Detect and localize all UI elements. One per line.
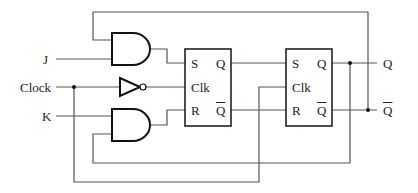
lower-and-gate — [112, 109, 150, 141]
k-label: K — [42, 110, 51, 123]
ff1-q-label: Q — [216, 57, 225, 70]
q-junction-dot — [348, 61, 352, 65]
q-output-label: Q — [383, 57, 392, 70]
clock-junction-dot — [72, 85, 76, 89]
ff1-qbar-label: Q — [216, 104, 225, 117]
ff2-q-label: Q — [317, 57, 326, 70]
ff1-r-label: R — [191, 104, 200, 117]
jk-flipflop-diagram: J Clock K S Clk R Q Q S Clk R Q Q Q Q — [0, 0, 418, 193]
ff2-r-label: R — [292, 104, 301, 117]
qbar-junction-dot — [366, 108, 370, 112]
ff1-clk-label: Clk — [191, 81, 210, 94]
ff1-s-label: S — [191, 57, 198, 70]
qbar-output-label: Q — [383, 104, 392, 117]
upper-and-gate — [112, 33, 150, 65]
and1-to-s-wire — [150, 49, 185, 63]
circuit-wires — [0, 0, 418, 193]
ff2-clk-label: Clk — [292, 81, 311, 94]
ff2-qbar-label: Q — [317, 104, 326, 117]
clock-inverter — [120, 78, 140, 96]
clock-label: Clock — [20, 81, 51, 94]
inverter-bubble — [140, 84, 146, 90]
and2-to-r-wire — [150, 110, 185, 125]
ff2-s-label: S — [292, 57, 299, 70]
j-label: J — [43, 53, 48, 66]
